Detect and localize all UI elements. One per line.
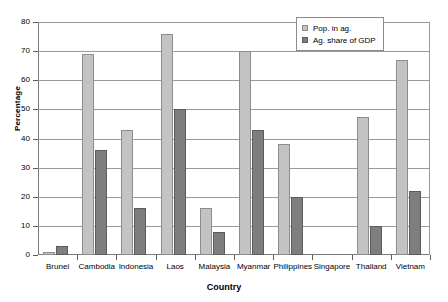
bar — [161, 34, 173, 255]
x-tick-mark — [430, 255, 431, 260]
x-tick-mark — [116, 255, 117, 260]
bar-chart: Percentage 01020304050607080 BruneiCambo… — [0, 0, 448, 302]
legend-label-pop-in-ag: Pop. in ag. — [313, 24, 351, 33]
y-tick-label: 50 — [0, 105, 30, 113]
y-tick-label: 40 — [0, 135, 30, 143]
y-tick-label: 10 — [0, 222, 30, 230]
x-tick-mark — [352, 255, 353, 260]
y-tick-label: 80 — [0, 18, 30, 26]
y-tick-label: 70 — [0, 47, 30, 55]
legend-item: Ag. share of GDP — [302, 34, 376, 46]
x-tick-mark — [234, 255, 235, 260]
bar-group — [391, 22, 430, 255]
bar-group — [273, 22, 312, 255]
bar — [370, 226, 382, 255]
bar-group — [156, 22, 195, 255]
bar-group — [312, 22, 351, 255]
bar — [56, 246, 68, 255]
y-tick-label: 0 — [0, 251, 30, 259]
bar-group — [195, 22, 234, 255]
bar — [291, 197, 303, 255]
x-tick-mark — [391, 255, 392, 260]
x-tick-mark — [77, 255, 78, 260]
bar-group — [116, 22, 155, 255]
bar — [174, 109, 186, 255]
bar — [409, 191, 421, 255]
x-category-label: Vietnam — [383, 262, 438, 271]
bar — [278, 144, 290, 255]
bar — [43, 252, 55, 255]
bar — [82, 54, 94, 255]
bar — [213, 232, 225, 255]
bar-group — [77, 22, 116, 255]
legend-swatch-ag-share-of-gdp — [302, 37, 308, 43]
bar — [121, 130, 133, 255]
legend-item: Pop. in ag. — [302, 22, 376, 34]
x-tick-mark — [312, 255, 313, 260]
bar — [357, 117, 369, 255]
x-tick-mark — [195, 255, 196, 260]
legend-label-ag-share-of-gdp: Ag. share of GDP — [313, 36, 376, 45]
bar — [252, 130, 264, 255]
bar — [239, 51, 251, 255]
y-tick-label: 30 — [0, 164, 30, 172]
y-tick-mark — [33, 255, 38, 256]
x-axis-title: Country — [0, 282, 448, 292]
y-tick-label: 20 — [0, 193, 30, 201]
bar-group — [38, 22, 77, 255]
bars-layer — [38, 22, 430, 255]
bar — [396, 60, 408, 255]
legend: Pop. in ag. Ag. share of GDP — [296, 17, 384, 51]
legend-swatch-pop-in-ag — [302, 25, 308, 31]
bar-group — [234, 22, 273, 255]
bar — [95, 150, 107, 255]
y-tick-label: 60 — [0, 76, 30, 84]
bar — [134, 208, 146, 255]
x-tick-mark — [273, 255, 274, 260]
bar — [200, 208, 212, 255]
x-tick-mark — [156, 255, 157, 260]
bar-group — [352, 22, 391, 255]
